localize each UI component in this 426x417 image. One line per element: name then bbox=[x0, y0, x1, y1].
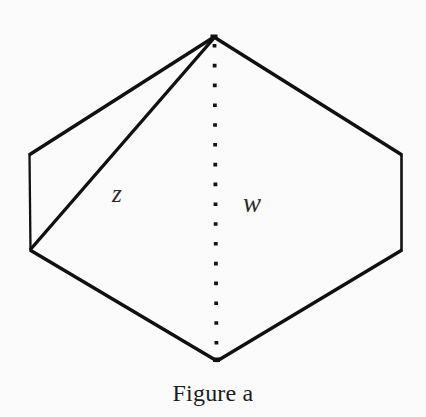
diagonal-edge-z bbox=[30, 38, 214, 250]
apex-join-top bbox=[211, 35, 218, 40]
label-z: z bbox=[112, 181, 122, 206]
label-w: w bbox=[243, 190, 261, 217]
figure-caption: Figure a bbox=[0, 380, 426, 407]
hexagon-diagram bbox=[0, 0, 426, 417]
edge-bottom-right bbox=[217, 250, 402, 361]
edge-left-vertical bbox=[30, 154, 31, 251]
edge-top-left bbox=[29, 37, 214, 155]
edge-top-right bbox=[214, 37, 402, 155]
edge-bottom-left bbox=[30, 250, 217, 361]
figure-a-container: z w Figure a bbox=[0, 0, 426, 417]
dotted-axis-w bbox=[215, 44, 217, 356]
apex-join-bottom bbox=[213, 358, 220, 363]
